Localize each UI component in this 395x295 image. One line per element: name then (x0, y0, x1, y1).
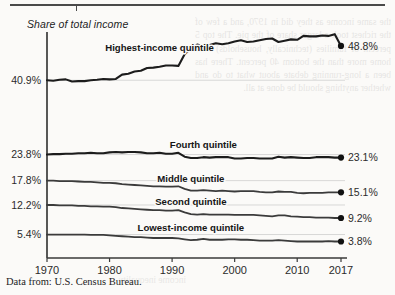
series-name-label: Second quintile (155, 196, 226, 207)
line-chart-svg: 40.9%23.8%17.8%12.2%5.4% 197019801990200… (0, 0, 395, 295)
series-end-value-label: 48.8% (348, 40, 378, 52)
series-name-label: Lowest-income quintile (138, 222, 245, 233)
series-endpoint-dot (338, 238, 344, 244)
series-endpoint-dot (338, 215, 344, 221)
series-name-label: Middle quintile (157, 173, 224, 184)
series-line (47, 235, 341, 242)
series-endpoint-dots-group (338, 43, 344, 245)
series-lines-group (47, 34, 341, 241)
y-axis-tick-label: 12.2% (11, 199, 41, 211)
y-axis-tick-label: 5.4% (17, 228, 41, 240)
series-end-value-label: 23.1% (348, 151, 378, 163)
x-axis-tick-label: 1990 (160, 264, 184, 276)
series-name-label: Fourth quintile (170, 139, 237, 150)
x-axis-tick-label: 2010 (285, 264, 309, 276)
series-name-labels-group: Highest-income quintileFourth quintileMi… (105, 42, 244, 233)
y-axis-tick-label: 40.9% (11, 74, 41, 86)
x-axis-tick-label: 2000 (222, 264, 246, 276)
y-axis-tick-labels-group: 40.9%23.8%17.8%12.2%5.4% (11, 74, 41, 240)
chart-figure: the same income as they did in 1970, and… (0, 0, 395, 295)
x-axis-tick-label: 2017 (329, 264, 353, 276)
series-endpoint-dot (338, 155, 344, 161)
source-note: Data from: U.S. Census Bureau. (6, 276, 142, 287)
x-axis-tick-labels-group: 197019801990200020102017 (35, 264, 353, 276)
x-axis-tick-label: 1970 (35, 264, 59, 276)
series-name-label: Highest-income quintile (105, 42, 214, 53)
x-axis-tick-label: 1980 (97, 264, 121, 276)
series-endpoint-dot (338, 189, 344, 195)
series-line (47, 152, 341, 159)
series-end-value-label: 9.2% (348, 212, 372, 224)
y-axis-tick-label: 17.8% (11, 174, 41, 186)
series-endpoint-dot (338, 43, 344, 49)
y-axis-tick-label: 23.8% (11, 148, 41, 160)
series-value-labels-group: 48.8%23.1%15.1%9.2%3.8% (348, 40, 378, 248)
series-end-value-label: 3.8% (348, 235, 372, 247)
series-end-value-label: 15.1% (348, 186, 378, 198)
